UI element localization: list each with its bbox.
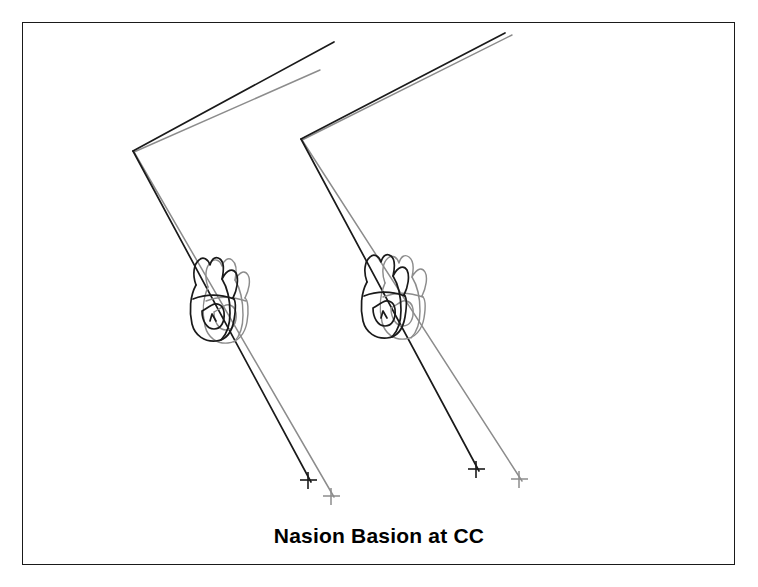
figure-page: Nasion Basion at CC [0, 0, 758, 587]
figure-frame [22, 22, 735, 565]
figure-caption: Nasion Basion at CC [0, 524, 758, 548]
